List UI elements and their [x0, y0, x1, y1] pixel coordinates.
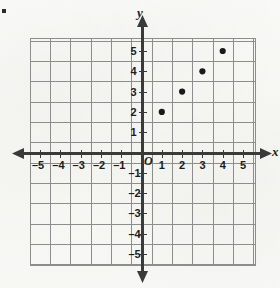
y-tick-label: 2 [131, 107, 137, 118]
x-tick-label: –1 [113, 160, 125, 171]
data-point [199, 68, 205, 74]
x-tick-label: 1 [159, 160, 165, 171]
x-tick-label: –5 [32, 160, 44, 171]
coordinate-grid-svg [0, 0, 280, 288]
y-tick-label: –1 [129, 168, 141, 179]
y-tick-label: –5 [129, 249, 141, 260]
data-point [179, 89, 185, 95]
x-tick-label: 3 [199, 160, 205, 171]
y-tick-label: 5 [131, 46, 137, 57]
y-tick-label: 4 [131, 66, 137, 77]
x-tick-label: 2 [179, 160, 185, 171]
y-tick-label: 1 [131, 127, 137, 138]
y-tick-label: –2 [129, 188, 141, 199]
coordinate-plane-figure: –5–4–3–2–11234554321–1–2–3–4–5 y x O [0, 0, 280, 288]
x-tick-label: –4 [52, 160, 64, 171]
x-tick-label: –2 [93, 160, 105, 171]
x-axis-label: x [272, 145, 279, 158]
y-tick-label: –3 [129, 208, 141, 219]
origin-label: O [144, 155, 153, 167]
y-tick-label: –4 [129, 229, 141, 240]
x-tick-label: 4 [220, 160, 226, 171]
x-tick-label: 5 [240, 160, 246, 171]
y-tick-label: 3 [131, 87, 137, 98]
data-point [220, 48, 226, 54]
data-point [159, 109, 165, 115]
y-axis-label: y [137, 6, 143, 19]
x-tick-label: –3 [73, 160, 85, 171]
